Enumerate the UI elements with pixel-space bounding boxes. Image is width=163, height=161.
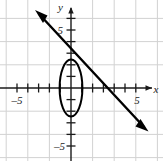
line-graph (35, 10, 149, 132)
coordinate-plane-svg: y x –5 5 5 –5 (0, 0, 163, 161)
x-tick-label-negative-5: –5 (11, 94, 24, 106)
line-segment (40, 15, 144, 127)
axes (0, 8, 152, 161)
x-axis-arrow-icon (146, 85, 153, 90)
y-axis-arrow-icon (68, 7, 73, 14)
x-axis-label: x (153, 83, 159, 95)
y-axis-label: y (57, 1, 63, 13)
y-tick-label-positive-5: 5 (58, 24, 64, 36)
x-tick-label-positive-5: 5 (134, 94, 140, 106)
y-tick-label-negative-5: –5 (53, 140, 66, 152)
graph-figure: y x –5 5 5 –5 (0, 0, 163, 161)
